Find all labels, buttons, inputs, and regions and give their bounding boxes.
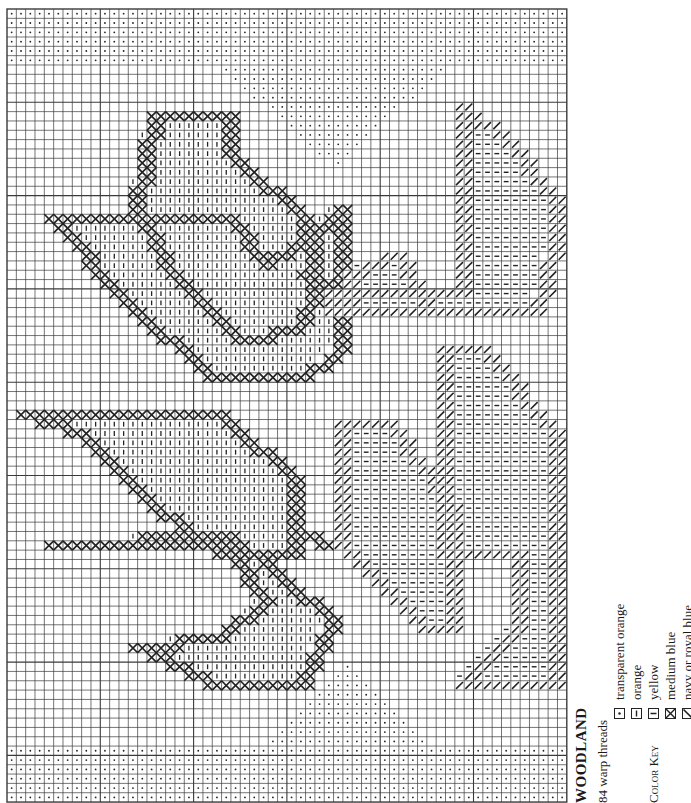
pattern-legend: WOODLAND 84 warp threads Color Key trans…: [572, 473, 691, 803]
color-key-item-label: medium blue: [662, 632, 679, 700]
dot-symbol-icon: [614, 708, 625, 719]
color-key-item: yellow: [645, 604, 662, 719]
color-key-list: transparent orangeorangeyellowmedium blu…: [611, 604, 691, 719]
color-key-item: medium blue: [662, 604, 679, 719]
color-key-item-label: yellow: [645, 665, 662, 700]
color-key-item: navy or royal blue: [679, 604, 691, 719]
color-key: Color Key transparent orangeorangeyellow…: [611, 473, 691, 803]
color-key-label: Color Key: [645, 719, 662, 803]
warp-thread-count: 84 warp threads: [594, 473, 611, 803]
color-key-item: transparent orange: [611, 604, 628, 719]
color-key-item-label: orange: [628, 665, 645, 700]
horizontal-bar-symbol-icon: [631, 708, 642, 719]
vertical-bar-symbol-icon: [648, 708, 659, 719]
pattern-title: WOODLAND: [572, 473, 590, 803]
slash-symbol-icon: [682, 708, 691, 719]
color-key-item-label: navy or royal blue: [679, 605, 691, 700]
color-key-item: orange: [628, 604, 645, 719]
cross-symbol-icon: [665, 708, 676, 719]
color-key-item-label: transparent orange: [611, 604, 628, 700]
